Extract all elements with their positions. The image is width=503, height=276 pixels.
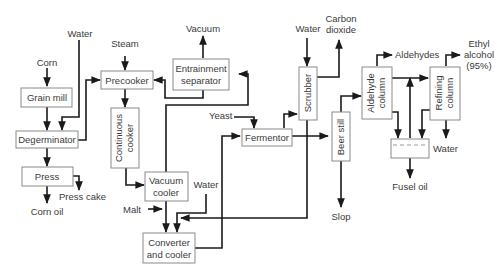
unit-continuous-cooker: Continuous cooker bbox=[111, 108, 139, 168]
water-converter-label: Water bbox=[194, 179, 219, 190]
converter-label-2: and cooler bbox=[147, 249, 191, 260]
unit-decanter bbox=[391, 139, 429, 158]
entrainment-label-2: separator bbox=[181, 75, 221, 86]
water-scrubber-label: Water bbox=[296, 23, 321, 34]
unit-vacuum-cooler: Vacuum cooler bbox=[145, 172, 188, 201]
water-refining-label: Water bbox=[433, 143, 458, 154]
refining-column-label-1: Refining bbox=[433, 76, 444, 111]
stream-labels: Corn Water Steam Vacuum Press cake Corn … bbox=[31, 13, 494, 222]
refining-column-label-2: column bbox=[444, 78, 455, 109]
entrainment-label-1: Entrainment bbox=[175, 63, 227, 74]
vacuum-label: Vacuum bbox=[186, 23, 220, 34]
unit-scrubber: Scrubber bbox=[299, 67, 317, 120]
unit-aldehyde-column: Aldehyde column bbox=[362, 67, 392, 119]
unit-grain-mill: Grain mill bbox=[21, 88, 72, 107]
unit-entrainment-separator: Entrainment separator bbox=[173, 59, 229, 90]
precooker-label: Precooker bbox=[105, 75, 148, 86]
slop-label: Slop bbox=[331, 211, 350, 222]
steam-label: Steam bbox=[111, 38, 139, 49]
continuous-cooker-label-1: Continuous bbox=[113, 114, 124, 162]
carbon-dioxide-label-2: dioxide bbox=[326, 24, 356, 35]
unit-refining-column: Refining column bbox=[430, 67, 460, 120]
fermentor-label: Fermentor bbox=[245, 132, 289, 143]
beer-still-label: Beer still bbox=[335, 119, 346, 155]
scrubber-label: Scrubber bbox=[302, 74, 313, 113]
continuous-cooker-label-2: cooker bbox=[124, 124, 135, 153]
grain-mill-label: Grain mill bbox=[27, 92, 67, 103]
vacuum-cooler-label-2: cooler bbox=[153, 187, 179, 198]
press-cake-label: Press cake bbox=[59, 191, 106, 202]
fusel-oil-label: Fusel oil bbox=[392, 181, 427, 192]
unit-precooker: Precooker bbox=[101, 71, 153, 89]
aldehyde-column-label-2: column bbox=[376, 78, 387, 109]
ethyl-alcohol-label-3: (95%) bbox=[466, 60, 491, 71]
aldehyde-column-label-1: Aldehyde bbox=[365, 73, 376, 113]
unit-converter-cooler: Converter and cooler bbox=[143, 233, 195, 263]
unit-press: Press bbox=[22, 167, 73, 186]
vacuum-cooler-label-1: Vacuum bbox=[149, 175, 183, 186]
corn-label: Corn bbox=[37, 57, 58, 68]
yeast-label: Yeast bbox=[209, 110, 233, 121]
press-label: Press bbox=[35, 171, 60, 182]
process-flow-diagram: Grain mill Degerminator Press Precooker … bbox=[0, 0, 503, 276]
malt-label: Malt bbox=[123, 204, 141, 215]
water-degerminator-label: Water bbox=[68, 28, 93, 39]
converter-label-1: Converter bbox=[148, 237, 190, 248]
ethyl-alcohol-label-2: alcohol bbox=[464, 49, 494, 60]
aldehydes-label: Aldehydes bbox=[395, 49, 440, 60]
degerminator-label: Degerminator bbox=[18, 134, 76, 145]
carbon-dioxide-label-1: Carbon bbox=[325, 13, 356, 24]
corn-oil-label: Corn oil bbox=[31, 206, 64, 217]
unit-beer-still: Beer still bbox=[332, 112, 350, 161]
unit-degerminator: Degerminator bbox=[16, 131, 78, 148]
ethyl-alcohol-label-1: Ethyl bbox=[468, 38, 489, 49]
unit-fermentor: Fermentor bbox=[242, 129, 292, 146]
